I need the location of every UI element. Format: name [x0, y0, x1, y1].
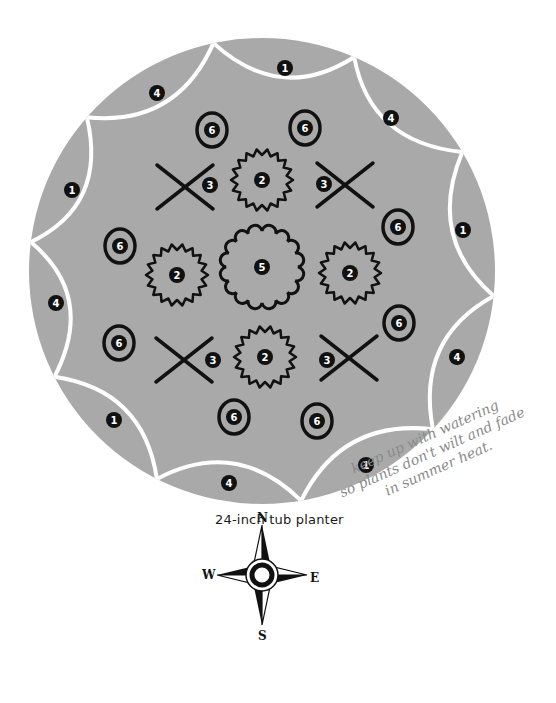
ringed-plant: 6	[226, 409, 242, 425]
svg-text:2: 2	[259, 175, 266, 186]
outer-section-label: 1	[455, 222, 471, 238]
svg-text:3: 3	[207, 180, 214, 191]
compass-south: S	[258, 629, 267, 643]
svg-text:2: 2	[262, 352, 269, 363]
outer-section-label: 4	[149, 85, 165, 101]
outer-section-label: 1	[106, 412, 122, 428]
svg-text:1: 1	[111, 415, 118, 426]
svg-text:6: 6	[116, 338, 123, 349]
ringed-plant: 6	[391, 315, 407, 331]
svg-text:4: 4	[154, 88, 161, 99]
svg-text:4: 4	[454, 352, 461, 363]
outer-section-label: 4	[449, 349, 465, 365]
outer-section-label: 4	[383, 110, 399, 126]
svg-text:5: 5	[259, 262, 266, 273]
x-plant-label: 3	[202, 177, 218, 193]
svg-text:2: 2	[347, 268, 354, 279]
x-plant-label: 3	[205, 352, 221, 368]
x-plant-label: 3	[319, 352, 335, 368]
outer-section-label: 4	[221, 475, 237, 491]
svg-text:1: 1	[69, 185, 76, 196]
svg-text:6: 6	[117, 241, 124, 252]
ringed-plant: 6	[204, 122, 220, 138]
svg-text:4: 4	[388, 113, 395, 124]
svg-text:6: 6	[395, 222, 402, 233]
svg-text:3: 3	[321, 179, 328, 190]
ringed-plant: 6	[309, 413, 325, 429]
svg-text:6: 6	[302, 123, 309, 134]
svg-text:3: 3	[324, 355, 331, 366]
planter-diagram: 1414141414 66666666 3333 2222 5 N S W E	[0, 0, 556, 703]
planter-caption: 24-inch tub planter	[215, 512, 344, 527]
spiky-plant: 2	[169, 267, 185, 283]
ringed-plant: 6	[297, 120, 313, 136]
svg-text:4: 4	[53, 298, 60, 309]
svg-text:6: 6	[314, 416, 321, 427]
outer-section-label: 4	[48, 295, 64, 311]
ringed-plant: 6	[112, 238, 128, 254]
svg-text:3: 3	[210, 355, 217, 366]
spiky-plant: 2	[254, 172, 270, 188]
compass-rose-icon: N S W E	[201, 511, 319, 643]
svg-text:1: 1	[460, 225, 467, 236]
ringed-plant: 6	[390, 219, 406, 235]
spiky-plant: 2	[342, 265, 358, 281]
center-plant-label: 5	[254, 259, 270, 275]
svg-text:1: 1	[282, 63, 289, 74]
spiky-plant: 2	[257, 349, 273, 365]
svg-text:6: 6	[209, 125, 216, 136]
svg-text:2: 2	[174, 270, 181, 281]
compass-east: E	[310, 571, 319, 585]
x-plant-label: 3	[316, 176, 332, 192]
svg-text:6: 6	[231, 412, 238, 423]
outer-section-label: 1	[64, 182, 80, 198]
svg-text:6: 6	[396, 318, 403, 329]
outer-section-label: 1	[277, 60, 293, 76]
svg-text:4: 4	[226, 478, 233, 489]
compass-west: W	[201, 568, 216, 582]
ringed-plant: 6	[111, 335, 127, 351]
